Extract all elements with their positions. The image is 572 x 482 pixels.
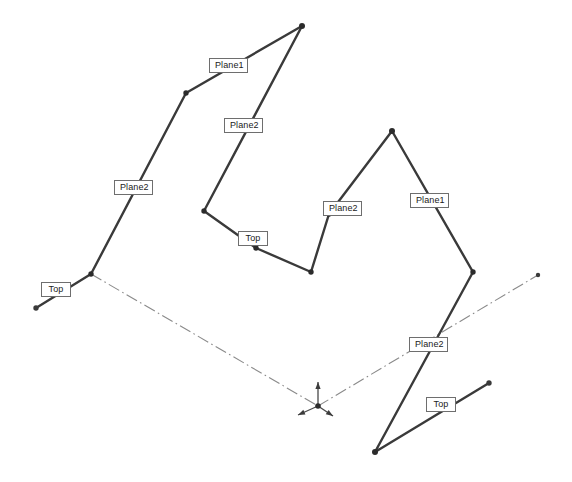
- origin-axis-left-arrowhead: [298, 410, 305, 415]
- label-plane1-right[interactable]: Plane1: [410, 193, 449, 208]
- origin-point[interactable]: [315, 403, 321, 409]
- sketch-point-v-left-bend[interactable]: [183, 90, 188, 95]
- label-plane2-lower-right[interactable]: Plane2: [409, 337, 448, 352]
- construction-lines-group: [91, 274, 538, 406]
- construction-centerline-left[interactable]: [91, 274, 318, 406]
- sketch-point-v-bottom-right-end[interactable]: [486, 380, 491, 385]
- sketch-point-v-left-node[interactable]: [88, 271, 93, 276]
- sketch-point-v-mid-bend[interactable]: [201, 208, 206, 213]
- origin-axis-right-arrowhead: [326, 410, 333, 416]
- sketch-drawing-svg[interactable]: [0, 0, 572, 482]
- drawing-canvas[interactable]: Plane1Plane2Plane2TopTopPlane2Plane1Plan…: [0, 0, 572, 482]
- label-plane2-upper-mid[interactable]: Plane2: [224, 118, 263, 133]
- sketch-point-v-right-peak[interactable]: [389, 128, 395, 134]
- sketch-point-v-bottom-node[interactable]: [372, 449, 378, 455]
- sketch-point-v-centerline-end[interactable]: [536, 273, 540, 277]
- sketch-point-v-apex[interactable]: [299, 23, 305, 29]
- sketch-point-v-valley[interactable]: [308, 269, 313, 274]
- label-plane1-upper-left[interactable]: Plane1: [209, 58, 248, 73]
- label-plane2-left[interactable]: Plane2: [114, 180, 153, 195]
- label-plane2-center[interactable]: Plane2: [323, 201, 362, 216]
- sketch-point-v-left-end[interactable]: [33, 305, 38, 310]
- sketch-point-v-mid-node[interactable]: [253, 245, 258, 250]
- sketch-point-v-right-node[interactable]: [470, 269, 475, 274]
- left-sketch-chain[interactable]: [36, 26, 302, 308]
- label-top-bottom-right[interactable]: Top: [426, 397, 456, 412]
- label-top-center[interactable]: Top: [238, 231, 268, 246]
- origin-axis-up-arrowhead: [315, 382, 320, 389]
- label-top-left[interactable]: Top: [41, 282, 71, 297]
- origin-triad-icon: [298, 382, 333, 416]
